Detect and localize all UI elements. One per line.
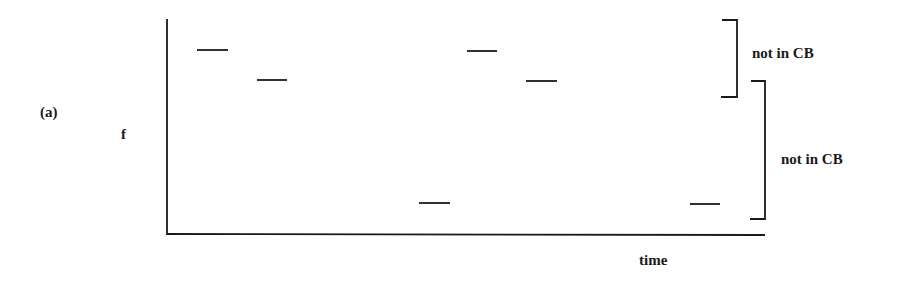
bracket-lower-label: not in CB bbox=[781, 151, 843, 168]
panel-label: (a) bbox=[40, 104, 58, 121]
bracket-upper bbox=[721, 20, 737, 97]
diagram-canvas bbox=[0, 0, 903, 282]
x-axis bbox=[167, 234, 765, 235]
frequency-segments bbox=[197, 50, 720, 204]
x-axis-label: time bbox=[639, 252, 667, 269]
bracket-upper-label: not in CB bbox=[752, 45, 814, 62]
bracket-lower bbox=[750, 81, 765, 219]
y-axis-label: f bbox=[121, 126, 126, 143]
